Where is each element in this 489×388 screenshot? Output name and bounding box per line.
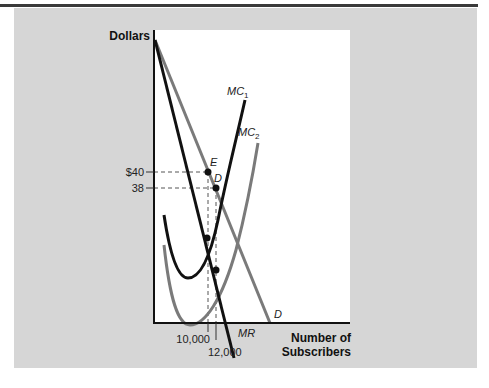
- mc2-mr-intersection: [213, 267, 220, 274]
- qty-12000-label: 12,000: [208, 346, 242, 358]
- price-40-label: $40: [126, 166, 144, 178]
- mc1-mr-intersection: [204, 235, 211, 242]
- y-axis-label: Dollars: [109, 29, 150, 43]
- price-38-label: 38: [132, 182, 144, 194]
- point-d: [213, 185, 220, 192]
- x-axis-label-line2: Subscribers: [282, 345, 352, 359]
- point-d-label: D: [214, 172, 222, 184]
- point-e-label: E: [210, 156, 218, 168]
- mr-label: MR: [238, 327, 255, 339]
- point-e: [205, 169, 212, 176]
- x-axis-label-line1: Number of: [291, 331, 352, 345]
- demand-label: D: [274, 308, 282, 320]
- qty-10000-label: 10,000: [176, 333, 210, 345]
- monopoly-chart: Dollars $40 38 E D MC1 MC2 D MR 10,000 1…: [0, 0, 489, 388]
